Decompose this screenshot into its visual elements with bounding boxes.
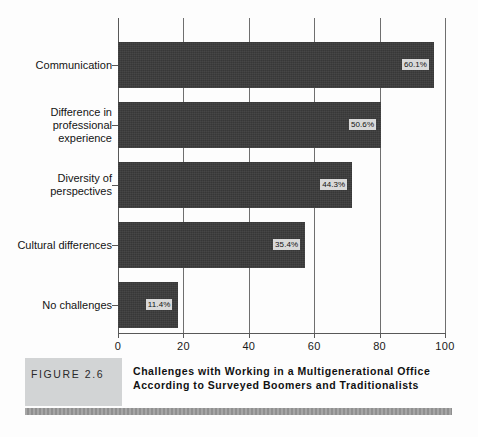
bar [118, 162, 352, 208]
category-axis: CommunicationDifference in professional … [8, 18, 112, 333]
figure-caption-text: Challenges with Working in a Multigenera… [133, 365, 453, 392]
caption-bottom-rule [25, 408, 452, 415]
x-axis-line [118, 333, 446, 334]
x-tick-label: 20 [177, 340, 190, 352]
category-tick [112, 125, 118, 126]
gridline-100 [445, 18, 446, 333]
category-tick [112, 305, 118, 306]
category-tick [112, 185, 118, 186]
category-tick [112, 245, 118, 246]
category-tick [112, 65, 118, 66]
bar-value-label: 11.4% [146, 299, 173, 310]
x-tick-80 [380, 333, 381, 338]
x-tick-label: 40 [242, 340, 255, 352]
x-tick-label: 80 [373, 340, 386, 352]
bar [118, 102, 381, 148]
x-tick-0 [118, 333, 119, 338]
figure-caption-block: FIGURE 2.6 Challenges with Working in a … [0, 358, 478, 437]
category-label: Cultural differences [17, 239, 112, 252]
category-label: Communication [36, 59, 112, 72]
bar-value-label: 44.3% [320, 179, 347, 190]
category-label: No challenges [42, 299, 112, 312]
category-label: Difference in professional experience [50, 106, 112, 145]
bar-value-label: 50.6% [349, 119, 376, 130]
x-tick-label: 60 [308, 340, 321, 352]
figure-tag-label: FIGURE 2.6 [31, 368, 104, 380]
x-tick-20 [183, 333, 184, 338]
x-tick-60 [314, 333, 315, 338]
bar-chart: CommunicationDifference in professional … [0, 0, 478, 355]
x-tick-100 [445, 333, 446, 338]
figure-container: CommunicationDifference in professional … [0, 0, 478, 437]
bar-value-label: 35.4% [273, 239, 300, 250]
figure-tag-box [25, 358, 122, 406]
x-tick-label: 0 [115, 340, 121, 352]
bar [118, 42, 434, 88]
x-tick-label: 100 [435, 340, 454, 352]
category-label: Diversity of perspectives [50, 172, 112, 198]
bar-value-label: 60.1% [402, 59, 429, 70]
x-tick-40 [249, 333, 250, 338]
